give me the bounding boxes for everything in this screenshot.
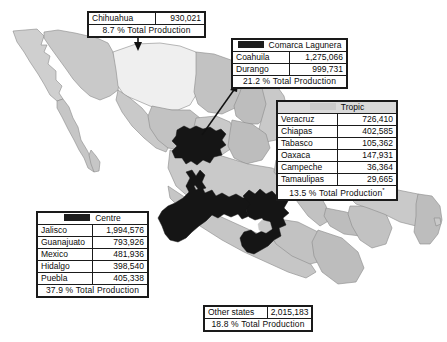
centre-row-4-value: 405,338 — [93, 273, 148, 285]
other-row-label: Other states — [205, 307, 268, 319]
table-footer-row: 18.8 % Total Production — [205, 319, 312, 331]
centre-row-2-value: 481,936 — [93, 249, 148, 261]
tropic-footer: 13.5 % Total Production — [289, 188, 382, 198]
centre-row-1-value: 793,926 — [93, 237, 148, 249]
table-row: Hidalgo 398,540 — [38, 261, 148, 273]
table-row: Campeche 36,364 — [278, 162, 397, 174]
table-row: Jalisco 1,994,576 — [38, 225, 148, 237]
table-row: Guanajuato 793,926 — [38, 237, 148, 249]
tropic-row-3-label: Oaxaca — [278, 150, 338, 162]
chihuahua-row-value: 930,021 — [156, 13, 205, 25]
centre-footer: 37.9 % Total Production — [38, 285, 148, 297]
comarca-footer: 21.2 % Total Production — [233, 76, 347, 88]
table-row: Other states 2,015,183 — [205, 307, 312, 319]
table-other-states: Other states 2,015,183 18.8 % Total Prod… — [203, 305, 313, 332]
tropic-row-4-value: 36,364 — [337, 162, 397, 174]
centre-row-0-label: Jalisco — [38, 225, 93, 237]
table-footer-row: 8.7 % Total Production — [89, 25, 205, 37]
table-footer-row: 21.2 % Total Production — [233, 76, 347, 88]
tropic-footer-cell: 13.5 % Total Production* — [278, 186, 397, 200]
tropic-row-2-value: 105,362 — [337, 138, 397, 150]
legend-swatch-comarca-icon — [238, 41, 264, 48]
table-chihuahua: Chihuahua 930,021 8.7 % Total Production — [87, 11, 206, 38]
table-row: Mexico 481,936 — [38, 249, 148, 261]
table-header-row: Centre — [38, 213, 148, 225]
table-centre: Centre Jalisco 1,994,576 Guanajuato 793,… — [36, 211, 149, 298]
table-row: Chihuahua 930,021 — [89, 13, 205, 25]
centre-header-label: Centre — [95, 213, 121, 223]
table-comarca-lagunera: Comarca Lagunera Coahuila 1,275,066 Dura… — [231, 38, 348, 89]
table-footer-row: 13.5 % Total Production* — [278, 186, 397, 200]
tropic-header-cell: Tropic — [278, 102, 397, 114]
centre-row-0-value: 1,994,576 — [93, 225, 148, 237]
chihuahua-row-label: Chihuahua — [89, 13, 156, 25]
table-tropic: Tropic Veracruz 726,410 Chiapas 402,585 … — [276, 100, 398, 201]
comarca-row-0-value: 1,275,066 — [290, 52, 347, 64]
tropic-header-label: Tropic — [341, 102, 364, 112]
comarca-row-0-label: Coahuila — [233, 52, 290, 64]
centre-row-2-label: Mexico — [38, 249, 93, 261]
table-row: Oaxaca 147,931 — [278, 150, 397, 162]
tropic-footer-superscript: * — [382, 187, 385, 193]
table-header-row: Tropic — [278, 102, 397, 114]
legend-swatch-tropic-icon — [310, 103, 336, 110]
tropic-row-5-value: 29,665 — [337, 174, 397, 186]
comarca-header-label: Comarca Lagunera — [269, 40, 342, 50]
centre-row-3-label: Hidalgo — [38, 261, 93, 273]
other-row-value: 2,015,183 — [267, 307, 311, 319]
tropic-row-0-label: Veracruz — [278, 114, 338, 126]
chihuahua-footer: 8.7 % Total Production — [89, 25, 205, 37]
legend-swatch-centre-icon — [64, 214, 90, 221]
tropic-row-0-value: 726,410 — [337, 114, 397, 126]
table-header-row: Comarca Lagunera — [233, 40, 347, 52]
table-row: Coahuila 1,275,066 — [233, 52, 347, 64]
comarca-header-cell: Comarca Lagunera — [233, 40, 347, 52]
centre-row-4-label: Puebla — [38, 273, 93, 285]
centre-row-3-value: 398,540 — [93, 261, 148, 273]
other-footer: 18.8 % Total Production — [205, 319, 312, 331]
tropic-row-5-label: Tamaulipas — [278, 174, 338, 186]
tropic-row-1-label: Chiapas — [278, 126, 338, 138]
comarca-row-1-label: Durango — [233, 64, 290, 76]
state-chiapas — [312, 230, 364, 284]
centre-row-1-label: Guanajuato — [38, 237, 93, 249]
table-row: Tamaulipas 29,665 — [278, 174, 397, 186]
tropic-row-4-label: Campeche — [278, 162, 338, 174]
centre-header-cell: Centre — [38, 213, 148, 225]
tropic-row-3-value: 147,931 — [337, 150, 397, 162]
comarca-row-1-value: 999,731 — [290, 64, 347, 76]
tropic-row-2-label: Tabasco — [278, 138, 338, 150]
table-row: Veracruz 726,410 — [278, 114, 397, 126]
table-row: Tabasco 105,362 — [278, 138, 397, 150]
table-row: Chiapas 402,585 — [278, 126, 397, 138]
table-row: Durango 999,731 — [233, 64, 347, 76]
tropic-row-1-value: 402,585 — [337, 126, 397, 138]
table-row: Puebla 405,338 — [38, 273, 148, 285]
table-footer-row: 37.9 % Total Production — [38, 285, 148, 297]
